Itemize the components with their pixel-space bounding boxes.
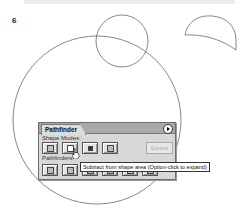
add-to-shape-area-button[interactable] — [42, 142, 58, 154]
expand-button[interactable]: Expand — [146, 142, 173, 154]
divide-icon — [47, 167, 54, 174]
intersect-shape-areas-button[interactable] — [82, 142, 98, 154]
panel-tab-pathfinder[interactable]: Pathfinder — [41, 124, 86, 135]
shape-modes-label: Shape Modes: — [42, 135, 81, 141]
trim-button[interactable] — [62, 164, 78, 176]
panel-menu-arrow-icon[interactable] — [163, 124, 173, 134]
hand-pointer-cursor-icon — [72, 148, 80, 159]
exclude-icon — [107, 145, 114, 152]
small-circle[interactable] — [96, 15, 148, 67]
tooltip: Subtract from shape area (Option-click t… — [80, 162, 210, 172]
divide-button[interactable] — [42, 164, 58, 176]
intersect-icon — [88, 146, 93, 151]
panel-header: Pathfinder — [39, 123, 175, 134]
result-shape[interactable] — [185, 16, 236, 50]
add-icon — [47, 145, 54, 152]
pathfinders-label: Pathfinders: — [42, 155, 74, 161]
trim-icon — [67, 167, 74, 174]
exclude-overlapping-areas-button[interactable] — [102, 142, 118, 154]
